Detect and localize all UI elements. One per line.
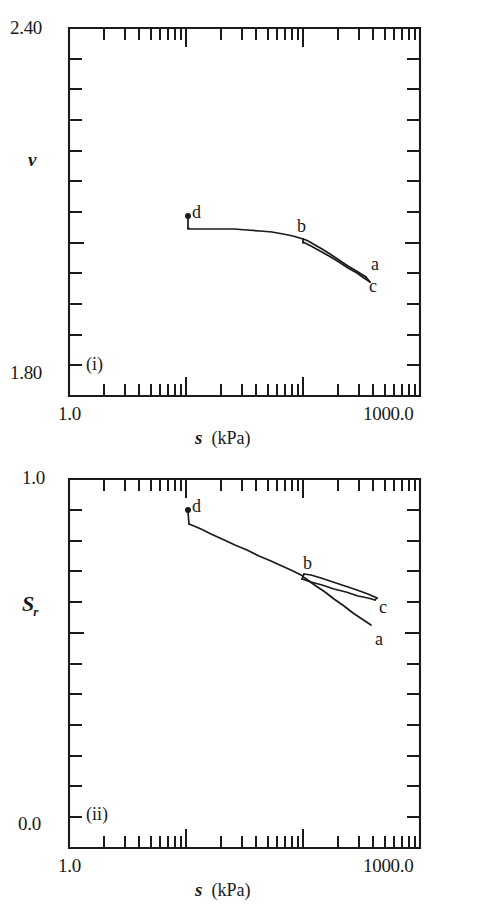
plot-i-x-axis-unit: (kPa) — [202, 428, 250, 448]
plot-ii-x-min-label: 1.0 — [58, 856, 81, 875]
plot-ii-y-axis-subscript: r — [33, 604, 38, 619]
plot-ii-point-label-c: c — [379, 598, 387, 616]
plot-ii-x-ticks-bottom — [104, 829, 415, 848]
plot-i-y-ticks — [69, 59, 84, 365]
plot-i-point-label-a: a — [371, 255, 379, 273]
plot-ii-y-max-label: 1.0 — [22, 468, 45, 487]
plot-ii-point-label-b: b — [303, 554, 312, 572]
curve-ii-hook-d — [188, 512, 189, 524]
curve-ii-loop-close-c — [375, 598, 377, 600]
plot-ii-y-axis-title: Sr — [22, 593, 39, 615]
plot-i-x-axis-title: s(kPa) — [195, 428, 250, 447]
plot-i-panel-tag: (i) — [86, 355, 103, 373]
plot-i-x-ticks-top — [104, 28, 415, 47]
plot-ii-data-curves — [188, 512, 377, 625]
plot-i-y-axis-title: v — [28, 150, 36, 169]
curve-ii-b-to-d — [189, 524, 303, 576]
plot-i-point-label-c: c — [369, 277, 377, 295]
plot-i-svg — [0, 0, 493, 450]
panel-ii-degree-of-saturation: 1.0 0.0 Sr 1.0 1000.0 s(kPa) (ii) a b c … — [0, 450, 493, 906]
curve-ii-b-to-c — [302, 579, 375, 600]
plot-ii-y-min-label: 0.0 — [18, 814, 41, 833]
plot-i-y-min-label: 1.80 — [10, 363, 42, 382]
plot-ii-y-ticks — [69, 510, 84, 817]
plot-ii-panel-tag: (ii) — [86, 805, 108, 823]
plot-ii-y-ticks-right — [405, 510, 420, 817]
plot-i-point-label-b: b — [297, 217, 306, 235]
curve-i-a-to-b — [303, 239, 366, 277]
curve-i-b-to-c — [303, 242, 370, 282]
plot-ii-x-ticks-top — [104, 479, 415, 498]
plot-i-point-label-d: d — [192, 203, 201, 221]
plot-i-x-min-label: 1.0 — [58, 404, 81, 423]
plot-ii-point-d-marker — [185, 507, 191, 513]
plot-i-data-curves — [188, 219, 370, 282]
plot-ii-x-axis-title: s(kPa) — [195, 880, 250, 899]
plot-i-x-max-label: 1000.0 — [363, 404, 413, 423]
plot-ii-point-label-d: d — [192, 497, 201, 515]
plot-i-point-d-marker — [185, 213, 191, 219]
panel-i-specific-volume: 2.40 1.80 v 1.0 1000.0 s(kPa) (i) a b c … — [0, 0, 493, 450]
plot-i-y-ticks-right — [405, 59, 420, 365]
plot-ii-svg — [0, 450, 493, 906]
plot-ii-x-axis-unit: (kPa) — [202, 880, 250, 900]
curve-i-b-to-d — [188, 228, 303, 239]
plot-i-x-ticks-bottom — [104, 377, 415, 396]
plot-ii-point-label-a: a — [375, 630, 383, 648]
plot-ii-x-max-label: 1000.0 — [363, 856, 413, 875]
plot-i-y-max-label: 2.40 — [10, 18, 42, 37]
